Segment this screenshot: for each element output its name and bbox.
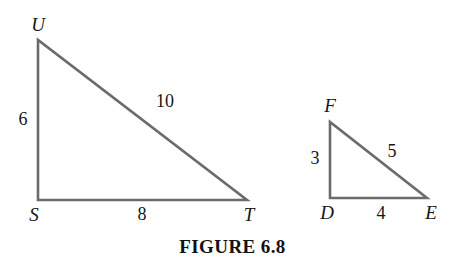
vertex-label-s: S [29,204,39,225]
figure-canvas: U S T 6 8 10 F D E 3 4 5 [0,0,465,274]
triangle-stu: U S T 6 8 10 [19,14,256,225]
figure-caption: FIGURE 6.8 [0,236,465,258]
vertex-label-t: T [244,204,256,225]
side-label-st: 8 [138,204,147,224]
triangle-def: F D E 3 4 5 [311,95,438,223]
triangle-def-outline [330,122,427,198]
side-label-df: 3 [311,148,320,168]
vertex-label-d: D [319,202,334,223]
side-label-de: 4 [377,203,386,223]
side-label-ut: 10 [156,91,174,111]
side-label-fe: 5 [388,141,397,161]
geometry-figure: U S T 6 8 10 F D E 3 4 5 FIGURE 6.8 [0,0,465,274]
vertex-label-u: U [31,14,46,35]
side-label-su: 6 [19,109,28,129]
vertex-label-e: E [424,202,437,223]
triangle-stu-outline [38,40,247,200]
vertex-label-f: F [323,95,336,116]
